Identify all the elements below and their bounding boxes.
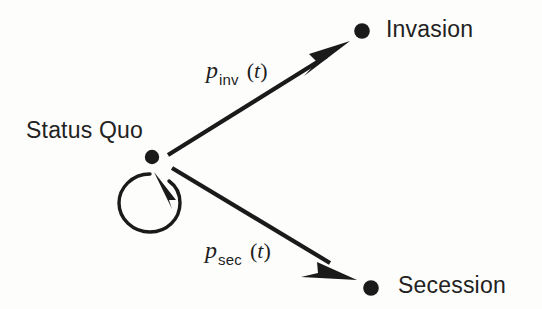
- secession-arrowhead: [301, 262, 357, 280]
- edge-label-p-sec: psec(t): [205, 238, 271, 262]
- edge-label-p-sec-argument: (t): [250, 238, 271, 263]
- edge-label-p-inv-argument: (t): [247, 58, 268, 83]
- invasion-arrowhead: [304, 41, 350, 76]
- diagram-canvas: Status Quo Invasion Secession pinv(t) ps…: [0, 0, 542, 309]
- state-transition-diagram: [0, 0, 542, 309]
- edge-label-p-sec-variable: p: [205, 237, 217, 263]
- edge-to-secession[interactable]: [172, 168, 357, 280]
- self-loop-arrowhead: [154, 172, 176, 209]
- self-loop-edge[interactable]: [119, 172, 180, 232]
- edge-label-p-inv-variable: p: [206, 57, 218, 83]
- node-label-invasion: Invasion: [386, 18, 473, 41]
- node-secession[interactable]: [363, 280, 379, 296]
- node-status-quo[interactable]: [145, 150, 159, 164]
- edge-label-p-inv: pinv(t): [206, 58, 268, 82]
- edge-label-p-sec-subscript: sec: [218, 251, 242, 268]
- self-loop-arc-path: [119, 174, 180, 232]
- node-label-status-quo: Status Quo: [26, 119, 143, 142]
- edge-label-p-inv-subscript: inv: [219, 71, 239, 88]
- node-label-secession: Secession: [398, 274, 506, 297]
- node-invasion[interactable]: [354, 23, 370, 39]
